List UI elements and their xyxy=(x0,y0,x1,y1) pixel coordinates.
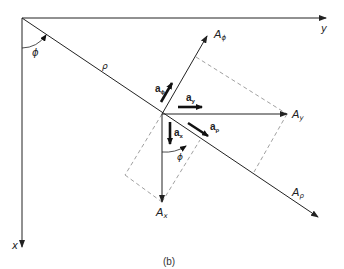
label-a-phi: aϕ xyxy=(155,83,166,95)
label-A-y: Ay xyxy=(291,108,305,122)
cylindrical-components-diagram: y x ϕ ρ ϕ Aϕ Ay Ax Aρ aϕ ay ax aρ (b) xyxy=(0,0,344,269)
label-A-x: Ax xyxy=(155,206,169,220)
label-a-y: ay xyxy=(186,92,196,104)
label-a-rho: aρ xyxy=(210,121,220,133)
vector-A-phi xyxy=(162,36,207,114)
phi-label-origin: ϕ xyxy=(32,47,39,58)
phi-label-point: ϕ xyxy=(177,152,183,162)
y-axis-label: y xyxy=(320,23,328,34)
unit-vector-a-rho xyxy=(188,123,208,136)
x-axis-label: x xyxy=(11,240,18,251)
label-A-rho: Aρ xyxy=(291,186,305,200)
rho-label: ρ xyxy=(102,61,108,71)
label-A-phi: Aϕ xyxy=(213,28,227,42)
figure-caption: (b) xyxy=(163,256,175,267)
label-a-x: ax xyxy=(174,127,184,139)
rho-line xyxy=(22,18,318,217)
